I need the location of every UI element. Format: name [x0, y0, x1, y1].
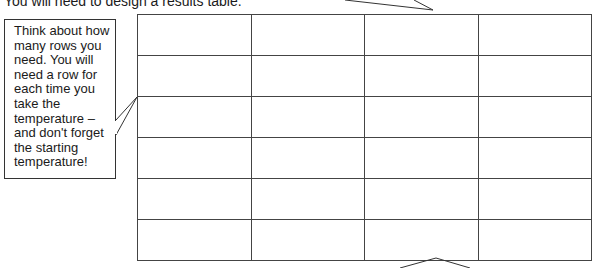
bottom-pointer-tail [400, 258, 470, 268]
hint-callout-tail [116, 97, 137, 135]
top-pointer-tail [345, 0, 433, 10]
callout-pointers [0, 0, 602, 268]
